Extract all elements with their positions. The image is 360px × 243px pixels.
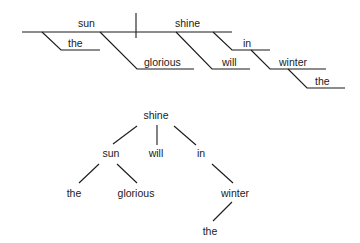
- node-in: in: [197, 147, 205, 159]
- edge-shine-in: [174, 126, 196, 145]
- node-shine: shine: [143, 109, 168, 121]
- node-sun: sun: [103, 147, 120, 159]
- node-will: will: [149, 147, 164, 159]
- word-in: in: [243, 37, 251, 49]
- edge-shine-sun: [113, 126, 137, 144]
- word-glorious: glorious: [144, 56, 181, 68]
- diagram-lines: [0, 0, 360, 243]
- word-the-1: the: [68, 37, 83, 49]
- edge-winter-the: [213, 202, 232, 221]
- tree-diagram-lines: [79, 125, 233, 221]
- node-the-2: the: [203, 225, 218, 237]
- node-winter: winter: [221, 187, 249, 199]
- word-winter: winter: [279, 56, 307, 68]
- word-the-2: the: [315, 75, 330, 87]
- node-the-1: the: [67, 187, 82, 199]
- word-sun: sun: [78, 17, 95, 29]
- edge-sun-glorious: [117, 164, 137, 183]
- word-will: will: [222, 56, 237, 68]
- node-glorious: glorious: [118, 187, 155, 199]
- edge-sun-the: [79, 164, 99, 183]
- word-shine: shine: [175, 17, 200, 29]
- edge-in-winter: [212, 164, 233, 183]
- modifier-line-in: [213, 32, 270, 50]
